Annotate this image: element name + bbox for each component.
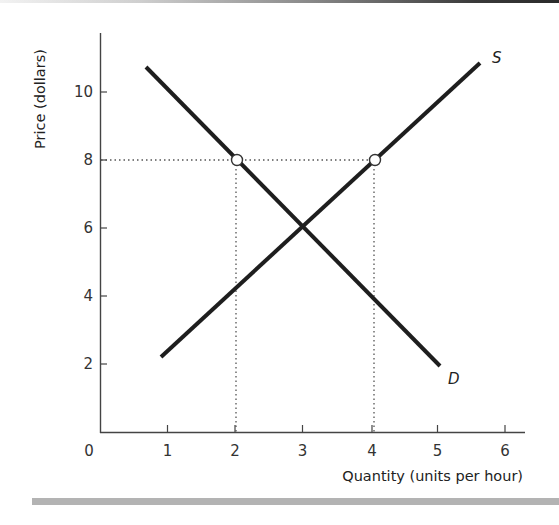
x-tick-0: 0: [84, 442, 94, 460]
x-tick-6: 6: [500, 442, 510, 460]
y-tick-8: 8: [83, 151, 93, 169]
supply-label: S: [492, 49, 502, 67]
point-q4-p8: [370, 155, 381, 166]
demand-curve: [146, 67, 440, 366]
x-tick-4: 4: [367, 442, 377, 460]
bottom-divider-bar: [32, 498, 559, 505]
x-ticks: [168, 425, 506, 432]
x-tick-3: 3: [298, 442, 308, 460]
y-tick-6: 6: [83, 219, 93, 237]
y-tick-labels: 10 8 6 4 2: [74, 83, 93, 373]
x-axis-title: Quantity (units per hour): [342, 468, 523, 484]
supply-demand-chart: 10 8 6 4 2 0 1 2 3 4 5 6 Price (dollars)…: [0, 0, 559, 525]
x-tick-5: 5: [433, 442, 443, 460]
x-tick-labels: 0 1 2 3 4 5 6: [84, 442, 510, 460]
supply-curve: [161, 63, 480, 357]
point-q2-p8: [232, 155, 243, 166]
y-tick-10: 10: [74, 83, 93, 101]
y-tick-2: 2: [83, 355, 93, 373]
x-tick-2: 2: [230, 442, 240, 460]
y-axis-title: Price (dollars): [32, 49, 48, 149]
axes: [100, 33, 525, 433]
x-tick-1: 1: [163, 442, 173, 460]
y-tick-4: 4: [83, 287, 93, 305]
demand-label: D: [448, 370, 460, 388]
